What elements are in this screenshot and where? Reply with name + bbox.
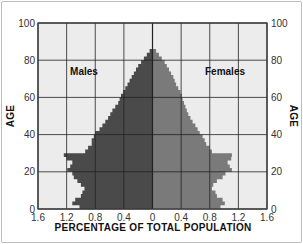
- x-axis-label: PERCENTAGE OF TOTAL POPULATION: [55, 222, 252, 233]
- y-tick-label-right: 0: [271, 204, 277, 215]
- y-tick-label-right: 40: [271, 129, 283, 140]
- y-tick-label-left: 20: [24, 166, 36, 177]
- y-tick-label-right: 20: [271, 166, 283, 177]
- males-label: Males: [70, 66, 98, 77]
- y-axis-label-left: AGE: [5, 105, 16, 128]
- y-tick-label-left: 80: [24, 55, 36, 66]
- y-tick-label-right: 60: [271, 92, 283, 103]
- females-label: Females: [205, 66, 245, 77]
- y-tick-label-left: 100: [18, 18, 35, 29]
- y-tick-label-left: 60: [24, 92, 36, 103]
- y-axis-ticks-left: 020406080100: [18, 18, 35, 215]
- y-axis-label-right: AGE: [288, 105, 299, 128]
- y-tick-label-right: 80: [271, 55, 283, 66]
- y-tick-label-right: 100: [271, 18, 288, 29]
- population-pyramid-chart: 1.61.20.80.400.40.81.21.6 020406080100 0…: [0, 0, 303, 244]
- y-tick-label-left: 40: [24, 129, 36, 140]
- y-tick-label-left: 0: [29, 204, 35, 215]
- y-axis-ticks-right: 020406080100: [271, 18, 288, 215]
